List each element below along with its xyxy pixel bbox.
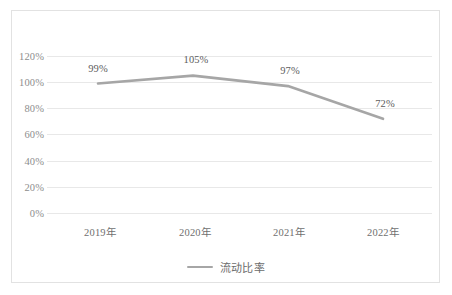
data-label-2022: 72%: [375, 98, 395, 109]
x-tick-label-2022: 2022年: [367, 224, 399, 239]
x-tick-label-2019: 2019年: [84, 224, 116, 239]
x-axis: 2019年 2020年 2021年 2022年: [0, 224, 452, 240]
x-tick-label-2020: 2020年: [179, 224, 211, 239]
legend-line-swatch-icon: [187, 266, 213, 269]
x-tick-label-2021: 2021年: [273, 224, 305, 239]
data-label-2021: 97%: [280, 65, 300, 76]
chart-legend: 流动比率: [0, 259, 452, 275]
line-chart: 120% 100% 80% 60% 40% 20% 0% 99% 105% 97…: [0, 0, 452, 295]
series-polyline: [98, 76, 383, 119]
data-label-2019: 99%: [88, 63, 108, 74]
data-label-2020: 105%: [184, 54, 209, 65]
series-line-liquidity-ratio: [0, 0, 452, 295]
legend-label-liquidity-ratio: 流动比率: [220, 259, 265, 275]
